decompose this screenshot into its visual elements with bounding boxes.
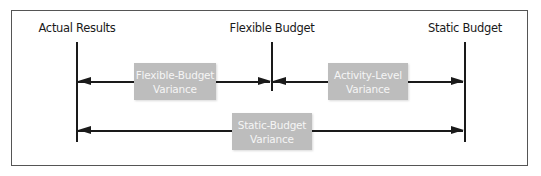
activity-level-variance-line2: Variance <box>328 82 408 96</box>
arrowhead-left-icon <box>273 77 286 85</box>
static-budget-variance-box: Static-Budget Variance <box>232 113 312 150</box>
label-flexible-budget: Flexible Budget <box>230 21 315 35</box>
arrowhead-left-icon <box>78 126 91 134</box>
static-budget-variance-line2: Variance <box>232 132 312 146</box>
arrowhead-left-icon <box>78 77 91 85</box>
label-actual-results: Actual Results <box>38 21 115 35</box>
arrowhead-right-icon <box>258 77 271 85</box>
flexible-budget-variance-line1: Flexible-Budget <box>134 68 216 82</box>
activity-level-variance-box: Activity-Level Variance <box>328 63 408 100</box>
static-budget-variance-line1: Static-Budget <box>232 118 312 132</box>
flexible-budget-variance-box: Flexible-Budget Variance <box>134 63 216 100</box>
arrowhead-right-icon <box>451 126 464 134</box>
marker-static-budget <box>464 42 466 142</box>
flexible-budget-variance-line2: Variance <box>134 82 216 96</box>
arrowhead-right-icon <box>451 77 464 85</box>
activity-level-variance-line1: Activity-Level <box>328 68 408 82</box>
label-static-budget: Static Budget <box>428 21 502 35</box>
